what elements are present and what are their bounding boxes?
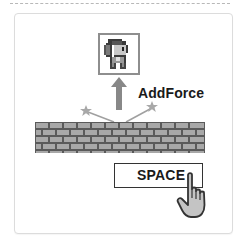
brick-wall-icon — [35, 122, 205, 153]
top-dashed-divider — [10, 3, 230, 4]
star-sparks-icon — [70, 100, 170, 124]
addforce-label: AddForce — [138, 85, 204, 101]
pointing-hand-cursor-icon — [176, 172, 208, 220]
pixel-character-sprite-icon — [100, 35, 138, 73]
character-sprite-frame — [98, 33, 140, 75]
